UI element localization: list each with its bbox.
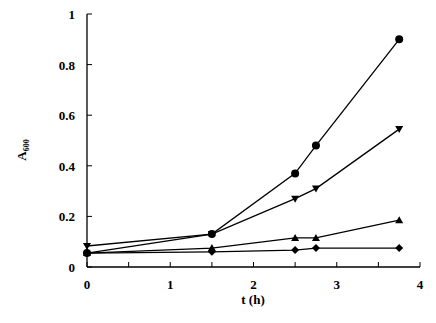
series-line: [87, 129, 399, 246]
y-axis-title: A600: [14, 139, 31, 160]
y-tick-label: 0.8: [59, 58, 76, 73]
circle-marker: [291, 169, 299, 177]
y-tick-label: 1: [69, 7, 76, 22]
x-tick-label: 0: [84, 277, 91, 292]
triangle-down-marker: [312, 186, 320, 193]
y-tick-label: 0.6: [59, 108, 76, 123]
triangle-down-marker: [395, 126, 403, 133]
diamond-marker: [395, 244, 403, 252]
line-chart: 0123400.20.40.60.81 t (h) A600: [0, 0, 436, 323]
x-tick-label: 1: [167, 277, 174, 292]
x-axis-title: t (h): [241, 292, 264, 307]
diamond-marker: [291, 246, 299, 254]
diamond-marker: [312, 244, 320, 252]
triangle-up-marker: [395, 216, 403, 223]
triangle-down-marker: [83, 243, 91, 250]
circle-marker: [312, 142, 320, 150]
series-circle: [83, 35, 403, 257]
circle-marker: [395, 35, 403, 43]
y-tick-label: 0: [69, 260, 76, 275]
y-tick-label: 0.4: [59, 159, 76, 174]
series-group: [83, 35, 403, 257]
x-tick-label: 3: [334, 277, 341, 292]
svg-text:A600: A600: [14, 139, 31, 160]
x-tick-label: 4: [417, 277, 424, 292]
series-triangle-up: [83, 216, 403, 256]
y-tick-label: 0.2: [59, 209, 75, 224]
series-triangle-down: [83, 126, 403, 250]
x-tick-label: 2: [250, 277, 257, 292]
